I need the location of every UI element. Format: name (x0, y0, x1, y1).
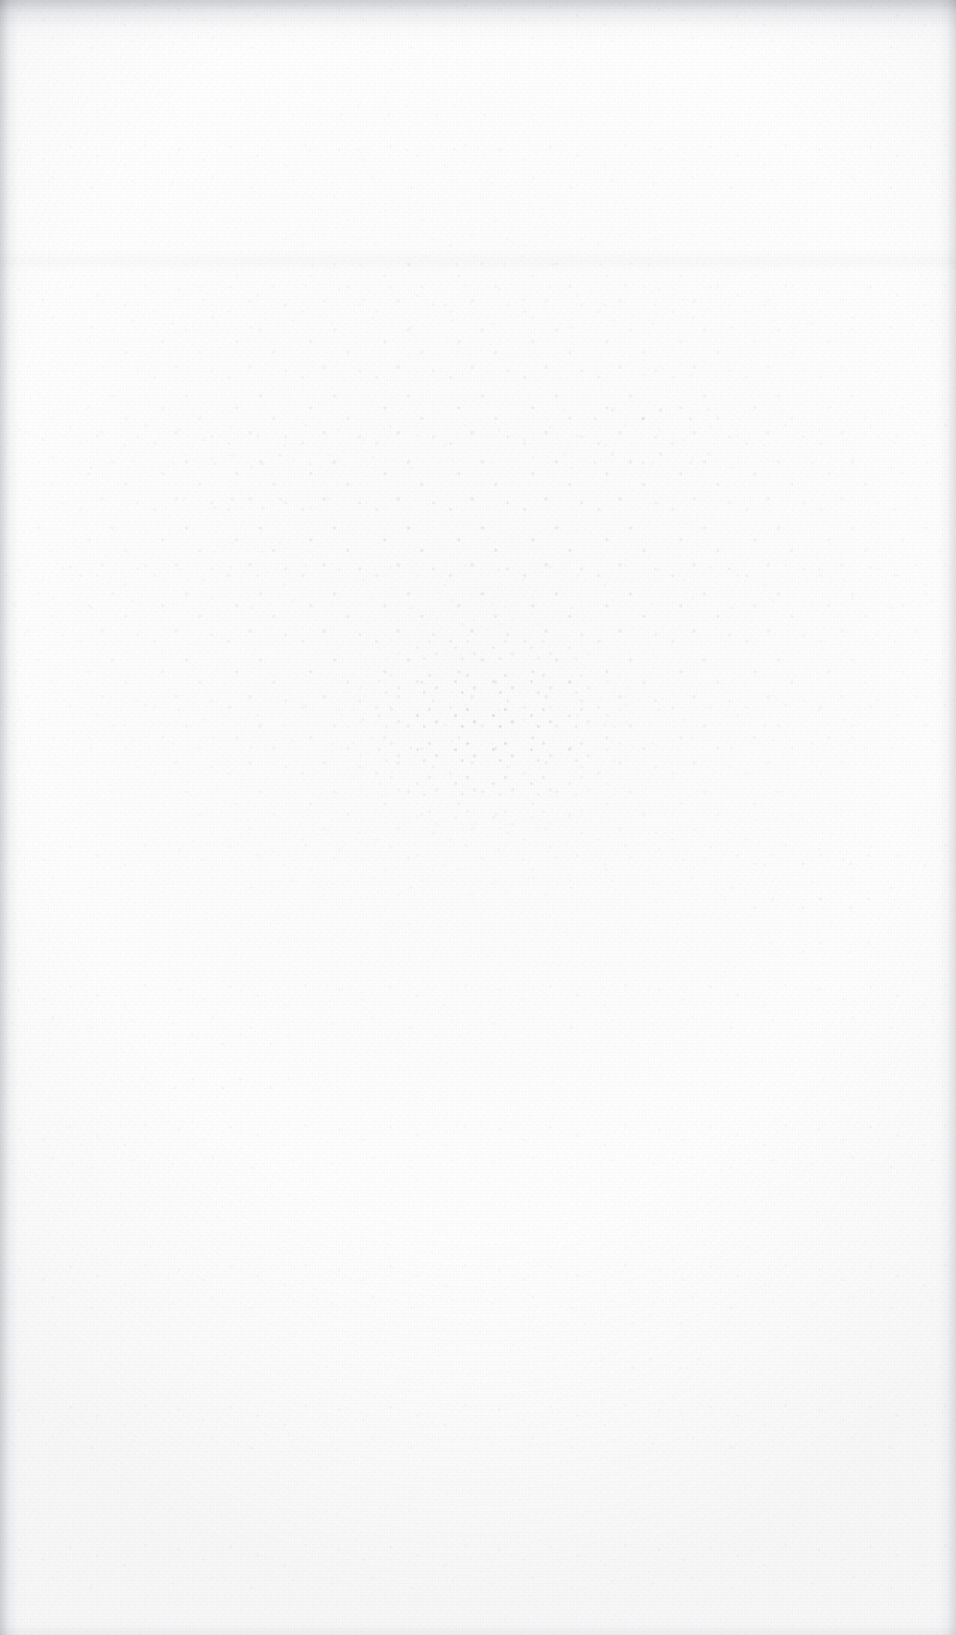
bottom-edge-shadow (0, 1617, 956, 1635)
left-edge-shadow (0, 0, 26, 1635)
right-edge-shadow (932, 0, 956, 1635)
page-vignette (0, 0, 956, 1635)
top-edge-shadow (0, 0, 956, 46)
scanned-page-canvas (0, 0, 956, 1635)
